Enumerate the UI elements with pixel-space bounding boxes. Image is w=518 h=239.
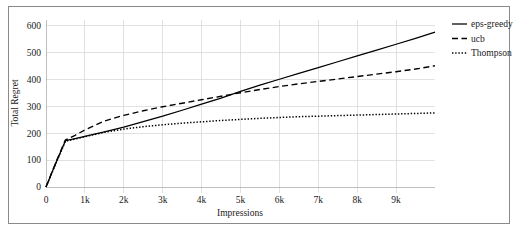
legend-label-eps-greedy: eps-greedy bbox=[471, 19, 513, 29]
x-tick-label: 6k bbox=[275, 195, 285, 205]
x-tick-label: 7k bbox=[314, 195, 324, 205]
x-tick-label: 0 bbox=[44, 195, 49, 205]
x-tick-label: 2k bbox=[119, 195, 129, 205]
y-tick-label: 0 bbox=[36, 182, 41, 192]
y-axis-tick-labels: 0100200300400500600 bbox=[27, 21, 42, 193]
x-axis-tick-labels: 01k2k3k4k5k6k7k8k9k bbox=[44, 195, 401, 205]
x-tick-label: 3k bbox=[158, 195, 168, 205]
y-tick-label: 400 bbox=[27, 75, 42, 85]
y-tick-label: 600 bbox=[27, 21, 42, 31]
y-tick-label: 100 bbox=[27, 155, 42, 165]
y-tick-label: 200 bbox=[27, 129, 42, 139]
x-axis-title: Impressions bbox=[217, 208, 263, 218]
y-axis-title: Total Regret bbox=[10, 79, 20, 126]
legend-label-thompson: Thompson bbox=[471, 48, 512, 58]
line-chart: 0100200300400500600 01k2k3k4k5k6k7k8k9k … bbox=[0, 0, 518, 239]
x-tick-label: 4k bbox=[197, 195, 207, 205]
legend-label-ucb: ucb bbox=[471, 34, 485, 44]
x-tick-label: 8k bbox=[352, 195, 362, 205]
chart-legend: eps-greedyucbThompson bbox=[452, 19, 513, 58]
x-tick-label: 5k bbox=[236, 195, 246, 205]
chart-figure: 0100200300400500600 01k2k3k4k5k6k7k8k9k … bbox=[0, 0, 518, 239]
x-tick-label: 9k bbox=[391, 195, 401, 205]
y-tick-label: 500 bbox=[27, 48, 42, 58]
x-tick-label: 1k bbox=[80, 195, 90, 205]
y-tick-label: 300 bbox=[27, 102, 42, 112]
